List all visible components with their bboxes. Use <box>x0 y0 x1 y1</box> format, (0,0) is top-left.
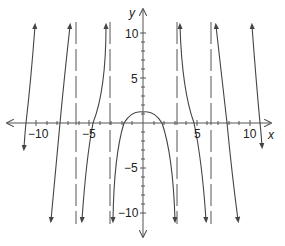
y-tick-label-m10: −10 <box>118 206 139 220</box>
x-tick-label-5: 5 <box>194 127 201 141</box>
x-axis-label: x <box>267 128 275 142</box>
y-tick-label-10: 10 <box>125 27 139 41</box>
y-axis-label: y <box>128 6 136 20</box>
x-tick-label-m5: −5 <box>82 127 96 141</box>
function-graph: y x −10 −5 5 10 10 5 −5 −10 <box>0 0 285 246</box>
y-tick-label-m5: −5 <box>124 161 138 175</box>
y-tick-label-5: 5 <box>131 72 138 86</box>
x-tick-label-m10: −10 <box>28 127 49 141</box>
x-tick-label-10: 10 <box>243 127 257 141</box>
